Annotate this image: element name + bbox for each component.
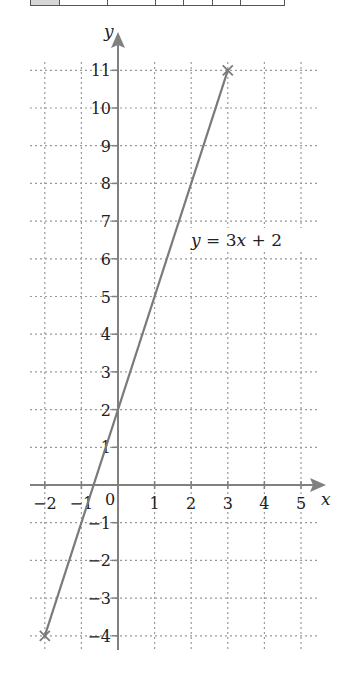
- line-graph: −2−1123450−4−3−2−11234567891011xy y = 3x…: [0, 0, 341, 674]
- annotations: y = 3x + 2: [188, 228, 306, 252]
- equation-label: y = 3x + 2: [190, 230, 282, 250]
- x-tick-label: 5: [296, 494, 306, 513]
- origin-label: 0: [105, 490, 115, 509]
- y-tick-label: 9: [101, 137, 111, 156]
- y-tick-label: 3: [101, 363, 111, 382]
- y-tick-label: 5: [101, 288, 111, 307]
- y-tick-label: 7: [101, 212, 111, 231]
- y-tick-label: −1: [87, 514, 111, 533]
- y-tick-label: 4: [101, 325, 111, 344]
- y-tick-label: 8: [101, 174, 111, 193]
- y-tick-label: −3: [87, 589, 111, 608]
- x-tick-label: 1: [150, 494, 160, 513]
- x-tick-label: 3: [223, 494, 233, 513]
- axes: [30, 32, 326, 650]
- data-line: [45, 70, 228, 636]
- grid-lines: [30, 62, 318, 652]
- y-tick-label: 10: [91, 99, 111, 118]
- y-tick-label: 11: [91, 61, 111, 80]
- x-axis-label: x: [321, 489, 331, 509]
- y-axis-label: y: [103, 21, 114, 41]
- x-tick-label: 2: [186, 494, 196, 513]
- data-series: [40, 65, 233, 641]
- x-tick-label: −2: [33, 494, 57, 513]
- tick-labels: −2−1123450−4−3−2−11234567891011xy: [33, 21, 331, 646]
- y-tick-label: 2: [101, 401, 111, 420]
- y-tick-label: −2: [87, 551, 111, 570]
- y-tick-label: −4: [87, 627, 111, 646]
- x-tick-label: 4: [259, 494, 269, 513]
- y-tick-label: 6: [101, 250, 111, 269]
